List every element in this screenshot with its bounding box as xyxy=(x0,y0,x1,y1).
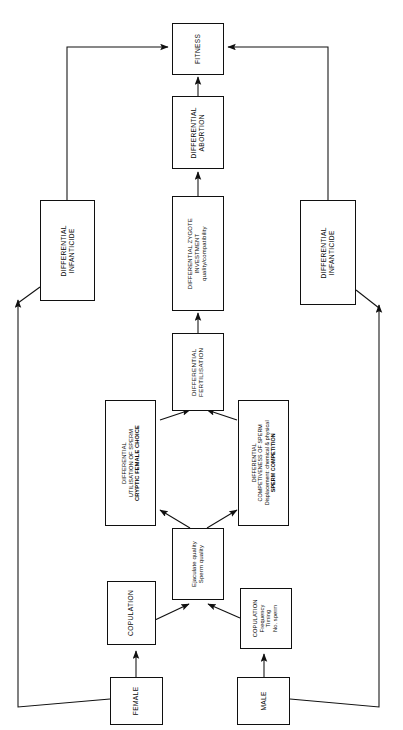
edge-sperm-competition-to-fertilisation xyxy=(207,410,237,420)
edge-infanticide-left-to-fitness xyxy=(67,47,168,200)
node-cryptic-female-choice[interactable]: DIFFERENTIAL UTILISATION OF SPERM CRYPTI… xyxy=(105,400,156,526)
node-fitness[interactable]: FITNESS xyxy=(172,23,224,75)
edge-female-to-infanticide-left xyxy=(18,300,110,707)
node-infanticide-left-label: DIFFERENTIAL INFANTICIDE xyxy=(60,225,76,276)
edge-male-to-infanticide-right xyxy=(290,305,379,707)
stub-infanticide-right xyxy=(356,290,379,308)
node-male-label: MALE xyxy=(260,691,268,710)
node-copulation-female-label: COPULATION xyxy=(128,590,136,636)
node-cryptic-female-choice-label: DIFFERENTIAL UTILISATION OF SPERM CRYPTI… xyxy=(120,425,140,501)
node-sperm-competition-label: DIFFERENTIAL COMPETIVENESS OF SPERM Disp… xyxy=(251,421,277,506)
node-copulation-female[interactable]: COPULATION xyxy=(107,581,156,645)
node-sperm-competition[interactable]: DIFFERENTIAL COMPETIVENESS OF SPERM Disp… xyxy=(238,400,289,526)
node-differential-abortion-label: DIFFERENTIAL ABORTION xyxy=(190,107,206,158)
node-differential-abortion[interactable]: DIFFERENTIAL ABORTION xyxy=(172,96,224,169)
node-female[interactable]: FEMALE xyxy=(110,677,163,725)
edge-infanticide-right-to-fitness xyxy=(228,47,328,200)
edge-female-choice-to-fertilisation xyxy=(160,410,190,420)
edge-copulation-female-to-ejaculate xyxy=(155,604,189,620)
node-ejaculate-quality[interactable]: Ejaculate quality Sperm quality xyxy=(172,528,224,600)
edge-copulation-male-to-ejaculate xyxy=(208,604,240,618)
figure-canvas: FITNESS DIFFERENTIAL ABORTION DIFFERENTI… xyxy=(0,0,403,730)
edge-ejaculate-to-sperm-competition xyxy=(207,510,237,528)
node-ejaculate-quality-label: Ejaculate quality Sperm quality xyxy=(191,541,205,587)
edge-ejaculate-to-female-choice xyxy=(160,510,190,528)
node-differential-zygote-investment[interactable]: DIFFERENTIAL ZYGOTE INVESTMENT quality/c… xyxy=(172,196,224,311)
node-female-label: FEMALE xyxy=(133,687,141,716)
stub-infanticide-left xyxy=(18,287,40,303)
node-copulation-male[interactable]: COPULATION Frequency Timing No. sperm xyxy=(240,588,292,649)
node-differential-fertilisation[interactable]: DIFFERENTIAL FERTILISATION xyxy=(172,333,224,411)
node-male[interactable]: MALE xyxy=(237,677,290,725)
node-infanticide-left[interactable]: DIFFERENTIAL INFANTICIDE xyxy=(40,200,95,301)
node-differential-fertilisation-label: DIFFERENTIAL FERTILISATION xyxy=(191,347,206,396)
node-differential-zygote-investment-label: DIFFERENTIAL ZYGOTE INVESTMENT quality/c… xyxy=(187,218,208,289)
page-edge-caption-fragment xyxy=(386,0,402,730)
node-infanticide-right[interactable]: DIFFERENTIAL INFANTICIDE xyxy=(300,200,356,305)
node-fitness-label: FITNESS xyxy=(194,34,202,64)
node-infanticide-right-label: DIFFERENTIAL INFANTICIDE xyxy=(320,227,336,278)
node-copulation-male-label: COPULATION Frequency Timing No. sperm xyxy=(253,600,280,638)
